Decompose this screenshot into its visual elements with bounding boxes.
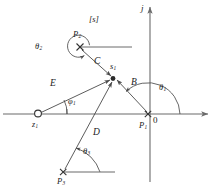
angle-label-theta3: θ3 xyxy=(83,147,90,157)
s-plane-label: [s] xyxy=(89,15,99,24)
vector-label-E: E xyxy=(50,79,56,89)
angle-label-theta2-sub: 2 xyxy=(39,45,42,51)
angle-arc-phi1 xyxy=(64,100,67,114)
point-label-s1-text: s xyxy=(110,61,113,71)
s-plane-vector-diagram: [s] j 0 P2 s1 z1 P1 P3 B C D E θ1 θ2 θ3 … xyxy=(0,0,218,190)
test-point-marker-s1 xyxy=(111,76,116,81)
point-label-s1: s1 xyxy=(110,62,116,72)
point-label-p1-sub: 1 xyxy=(145,124,148,130)
diagram-canvas xyxy=(0,0,218,190)
point-label-p3: P3 xyxy=(57,177,65,187)
angle-label-theta1-sub: 1 xyxy=(163,86,166,92)
point-label-p1-text: P xyxy=(139,120,144,130)
origin-label: 0 xyxy=(153,116,158,125)
point-label-z1: z1 xyxy=(32,121,38,129)
point-label-p2-sub: 2 xyxy=(79,33,82,39)
angle-label-phi1-text: φ xyxy=(68,96,73,106)
angle-label-theta3-sub: 3 xyxy=(87,150,90,156)
angle-label-phi1: φ1 xyxy=(68,97,76,107)
angle-label-phi1-sub: 1 xyxy=(73,100,76,106)
point-label-p1: P1 xyxy=(139,121,147,131)
angle-label-theta1: θ1 xyxy=(159,83,166,93)
vector-label-B: B xyxy=(131,78,137,88)
imaginary-axis-label: j xyxy=(141,4,144,13)
vector-label-C: C xyxy=(94,57,100,67)
angle-label-theta2: θ2 xyxy=(35,42,42,52)
point-label-p2-text: P xyxy=(73,29,78,39)
point-label-z1-sub: 1 xyxy=(35,124,38,129)
vector-label-D: D xyxy=(93,128,100,138)
point-label-p3-text: P xyxy=(57,176,62,186)
zero-marker-z1 xyxy=(35,110,42,117)
point-label-p3-sub: 3 xyxy=(63,180,66,186)
point-label-p2: P2 xyxy=(73,30,81,40)
point-label-s1-sub: 1 xyxy=(114,65,117,71)
